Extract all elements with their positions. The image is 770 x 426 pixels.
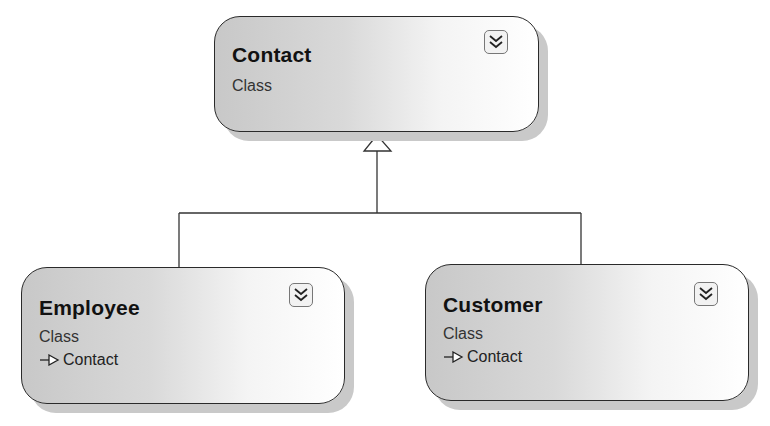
inheritance-line[interactable]: [179, 151, 581, 267]
class-shape-contact[interactable]: Contact Class: [214, 16, 539, 132]
inheritance-arrow-icon: [443, 351, 465, 363]
class-shape-customer[interactable]: Customer Class Contact: [425, 264, 749, 401]
expand-button[interactable]: [694, 282, 718, 306]
double-chevron-down-icon: [293, 287, 309, 303]
class-shape-employee[interactable]: Employee Class Contact: [21, 267, 345, 404]
base-class-reference: Contact: [39, 351, 118, 369]
base-class-name: Contact: [63, 351, 118, 369]
class-name: Employee: [39, 296, 140, 320]
class-kind: Class: [443, 325, 483, 343]
class-kind: Class: [39, 328, 79, 346]
inheritance-arrow-icon: [39, 354, 61, 366]
double-chevron-down-icon: [488, 34, 504, 50]
generalization-arrowhead-icon: [364, 135, 391, 151]
double-chevron-down-icon: [698, 286, 714, 302]
expand-button[interactable]: [289, 283, 313, 307]
base-class-reference: Contact: [443, 348, 522, 366]
expand-button[interactable]: [484, 30, 508, 54]
class-diagram-canvas: Contact Class Employee Class Contact: [0, 0, 770, 426]
class-name: Contact: [232, 43, 312, 67]
class-name: Customer: [443, 293, 543, 317]
base-class-name: Contact: [467, 348, 522, 366]
class-kind: Class: [232, 77, 272, 95]
